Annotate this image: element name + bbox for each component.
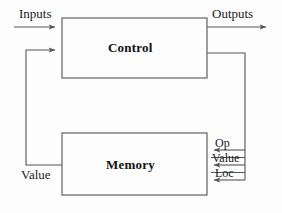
op-signal-label: Op [215,136,230,151]
value-left-signal-label: Value [21,167,51,183]
control-block-label: Control [108,40,153,56]
value-right-signal-label: Value [212,151,239,166]
memory-block-label: Memory [106,157,155,173]
loc-signal-label: Loc [215,166,234,181]
outputs-signal-label: Outputs [212,6,253,22]
block-diagram: Control Memory Inputs Outputs Op Value L… [0,0,282,213]
inputs-signal-label: Inputs [19,6,52,22]
memory-value-feedback-path [26,50,62,165]
